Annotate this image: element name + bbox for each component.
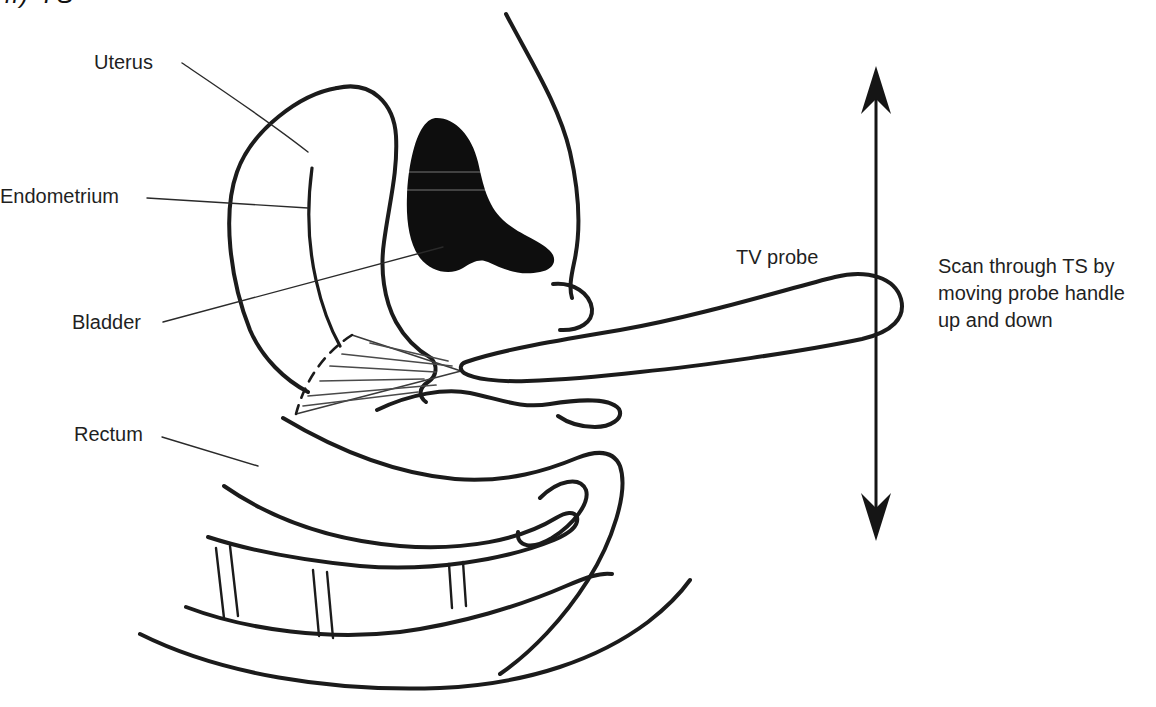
anatomy-line-art bbox=[0, 0, 1156, 707]
motion-arrow bbox=[861, 66, 891, 541]
bladder-label: Bladder bbox=[72, 311, 141, 333]
ts-scan-diagram: ii) TS Uterus Endometrium Bladder Rectum… bbox=[0, 0, 1156, 707]
vagina-perineum-curves bbox=[283, 284, 622, 674]
fan-scan-line bbox=[342, 354, 452, 366]
rectum-leader-line bbox=[162, 437, 258, 466]
fold-rung bbox=[313, 570, 319, 636]
fold-rung bbox=[463, 562, 466, 606]
tv-probe-outline bbox=[461, 274, 902, 381]
uterus-outline bbox=[229, 86, 435, 402]
bladder-fill bbox=[407, 118, 554, 273]
fold-rung bbox=[216, 548, 224, 618]
rectum-lower-wall bbox=[186, 574, 612, 635]
rectum-bowel-curves bbox=[140, 486, 690, 689]
fold-rung bbox=[230, 546, 238, 616]
tv-probe-label: TV probe bbox=[736, 246, 818, 268]
endometrium-leader-line bbox=[147, 198, 308, 208]
figure-corner-label: ii) TS bbox=[5, 0, 75, 5]
scan-instruction-text: Scan through TS by moving probe handle u… bbox=[938, 253, 1134, 334]
fold-rung bbox=[327, 572, 333, 638]
bladder-leader-line bbox=[163, 247, 443, 322]
rectum-lumen-outline bbox=[208, 486, 577, 568]
endometrium-label: Endometrium bbox=[0, 185, 119, 207]
bladder-shape bbox=[405, 118, 554, 273]
fan-scan-line bbox=[320, 379, 424, 381]
fan-scan-line bbox=[330, 366, 436, 372]
fold-rung bbox=[449, 564, 452, 608]
rectum-label: Rectum bbox=[74, 423, 143, 445]
leader-lines bbox=[147, 63, 443, 466]
posterior-vaginal-wall bbox=[377, 391, 620, 427]
endometrium-line bbox=[309, 168, 340, 346]
uterus-label: Uterus bbox=[94, 51, 153, 73]
